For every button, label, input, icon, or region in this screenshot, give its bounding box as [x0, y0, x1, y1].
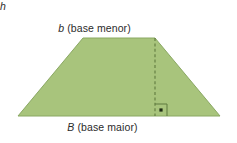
right-angle-dot-icon [159, 108, 162, 111]
trapezoid-shape [18, 38, 220, 116]
label-base-menor-text: (base menor) [64, 22, 131, 34]
trapezoid-diagram: b (base menor) B (base maior) h [0, 0, 237, 143]
label-base-maior: B (base maior) [0, 121, 237, 133]
label-base-menor: b (base menor) [0, 22, 237, 34]
label-base-maior-text: (base maior) [74, 121, 137, 133]
